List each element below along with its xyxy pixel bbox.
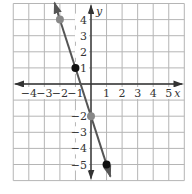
x-axis-label: x bbox=[174, 87, 181, 100]
x-tick-label: 3 bbox=[134, 87, 141, 100]
data-point bbox=[56, 16, 64, 24]
y-tick-label: −2 bbox=[71, 110, 87, 123]
x-tick-label: −4 bbox=[21, 87, 37, 100]
data-point bbox=[71, 64, 79, 72]
y-tick-label: −3 bbox=[71, 126, 87, 139]
x-tick-label: −3 bbox=[36, 87, 52, 100]
data-point bbox=[87, 112, 95, 120]
x-tick-label: 5 bbox=[165, 87, 172, 100]
y-tick-label: 1 bbox=[80, 62, 87, 75]
y-tick-label: −5 bbox=[71, 159, 87, 172]
y-tick-label: 2 bbox=[80, 46, 87, 59]
y-axis-label: y bbox=[95, 5, 103, 18]
y-tick-label: 4 bbox=[80, 14, 87, 27]
y-tick-label: 3 bbox=[80, 30, 87, 43]
x-tick-label: 2 bbox=[119, 87, 126, 100]
x-tick-label: 4 bbox=[150, 87, 157, 100]
x-tick-label: −1 bbox=[67, 87, 83, 100]
coordinate-plane-chart: −4−3−2−1123454321−2−3−4−5xy bbox=[0, 0, 192, 194]
y-tick-label: −4 bbox=[71, 142, 87, 155]
data-point bbox=[103, 161, 111, 169]
x-tick-label: 1 bbox=[103, 87, 110, 100]
x-tick-label: −2 bbox=[52, 87, 68, 100]
